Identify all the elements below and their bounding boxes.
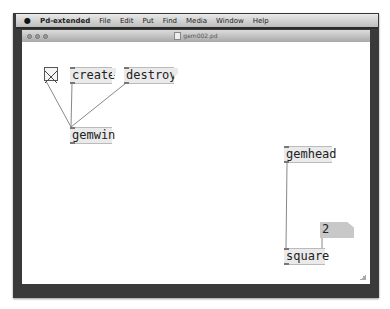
destroy-label: destroy: [126, 68, 177, 82]
menu-find[interactable]: Find: [163, 17, 177, 25]
create-message[interactable]: create: [70, 67, 112, 84]
menu-help[interactable]: Help: [253, 17, 269, 25]
window-title: gem002.pd: [22, 32, 370, 40]
square-label: square: [286, 249, 329, 263]
menu-window[interactable]: Window: [216, 17, 244, 25]
menu-bar: ● Pd-extended File Edit Put Find Media W…: [16, 14, 378, 29]
apple-icon[interactable]: ●: [24, 16, 34, 25]
number-value: 2: [322, 222, 329, 236]
gemwin-label: gemwin: [72, 128, 115, 142]
toggle-x-icon: [45, 71, 57, 83]
window-title-text: gem002.pd: [183, 32, 217, 39]
gemhead-label: gemhead: [286, 147, 337, 161]
menu-put[interactable]: Put: [142, 17, 153, 25]
gemwin-object[interactable]: gemwin: [70, 127, 112, 144]
wire-destroy-gemwin: [71, 83, 126, 127]
number-box[interactable]: 2: [320, 222, 354, 238]
toggle[interactable]: [44, 67, 58, 81]
menu-pd-extended[interactable]: Pd-extended: [40, 17, 90, 25]
destroy-message[interactable]: destroy: [124, 67, 174, 84]
menu-file[interactable]: File: [99, 17, 111, 25]
create-label: create: [72, 68, 115, 82]
gemhead-object[interactable]: gemhead: [284, 146, 332, 163]
document-icon: [174, 32, 181, 40]
square-object[interactable]: square: [284, 248, 325, 265]
wire-gemhead-square: [286, 163, 287, 248]
resize-grip-icon[interactable]: [360, 274, 366, 280]
menu-media[interactable]: Media: [186, 17, 207, 25]
wire-create-gemwin: [71, 83, 72, 127]
menu-edit[interactable]: Edit: [120, 17, 134, 25]
wire-toggle-gemwin: [46, 81, 71, 127]
patch-canvas[interactable]: create destroy gemwin gemhead 2 square: [22, 42, 370, 284]
window-title-bar[interactable]: gem002.pd: [22, 30, 370, 42]
